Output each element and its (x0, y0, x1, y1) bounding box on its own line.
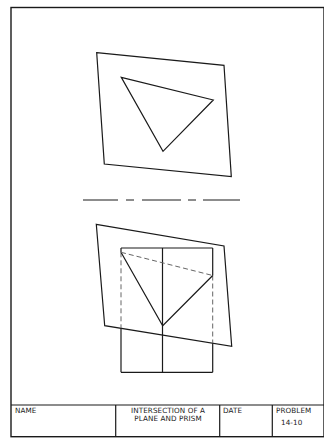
title-line-2: PLANE AND PRISM (116, 415, 220, 423)
problem-label: PROBLEM (276, 407, 311, 415)
intersection-visible-edges (121, 252, 213, 325)
date-label: DATE (223, 407, 242, 415)
intersection-hidden-edge (121, 252, 213, 275)
top-view-triangle (121, 77, 213, 151)
top-view-plane (97, 53, 232, 177)
name-label: NAME (15, 407, 36, 415)
problem-number: 14-10 (281, 419, 302, 427)
drawing-sheet (0, 0, 324, 443)
front-view (96, 224, 231, 372)
front-view-plane (96, 224, 231, 346)
top-view (97, 53, 232, 177)
